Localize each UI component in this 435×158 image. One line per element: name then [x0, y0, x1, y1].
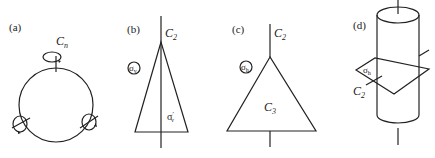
cylinder-bottom: [377, 115, 419, 123]
panel-label-a: (a): [9, 21, 22, 34]
c2-axis-right: [419, 50, 429, 56]
plane-label-sigma-v-prime: σ′v: [167, 110, 174, 123]
panel-label-c: (c): [232, 23, 245, 36]
inner-label-c3: C3: [264, 100, 276, 116]
molecule-ring: [19, 68, 93, 142]
panel-a: (a) Cn: [9, 21, 98, 142]
panel-label-d: (d): [353, 19, 366, 32]
panel-b: (b) C2 σv σ′v: [127, 16, 188, 148]
symmetry-diagram: (a) Cn (b) C2 σv σ′v (c) C2 σh C3: [0, 0, 435, 158]
sigma-h-plane: [356, 58, 429, 94]
panel-d: (d) σh C2: [353, 0, 429, 145]
axis-label-c2: C2: [353, 84, 365, 100]
axis-label-c2: C2: [165, 26, 177, 42]
plane-label-sigma-h: σh: [241, 62, 249, 73]
panel-c: (c) C2 σh C3: [227, 23, 316, 147]
plane-label-sigma-v: σv: [129, 63, 137, 74]
panel-label-b: (b): [127, 23, 140, 36]
axis-label-c2: C2: [274, 26, 286, 42]
axis-label-cn: Cn: [56, 34, 68, 50]
plane-label-sigma-h: σh: [363, 65, 371, 76]
